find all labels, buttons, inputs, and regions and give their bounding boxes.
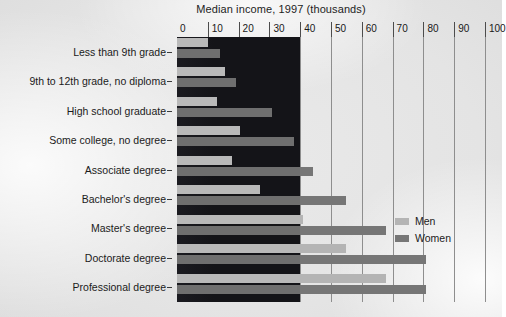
legend-item-men: Men [395,215,451,227]
x-tick-100: 100 [485,22,506,37]
bar-women-0 [177,49,220,58]
bar-men-8 [177,274,386,283]
category-label-1: 9th to 12th grade, no diploma [29,75,166,87]
category-label-7: Doctorate degree [85,252,166,264]
bar-men-5 [177,185,260,194]
category-tick-6 [167,228,172,229]
legend-item-women: Women [395,232,451,244]
legend-swatch-women-icon [395,235,409,242]
bar-men-6 [177,215,303,224]
x-tick-40: 40 [300,22,315,37]
bar-women-5 [177,196,346,205]
category-tick-5 [167,199,172,200]
x-tick-0: 0 [177,22,186,37]
bar-men-2 [177,97,217,106]
bar-row [177,184,485,213]
bar-row [177,155,485,184]
category-tick-7 [167,258,172,259]
x-tick-20: 20 [239,22,254,37]
chart-title: Median income, 1997 (thousands) [0,3,502,15]
category-tick-0 [167,52,172,53]
bar-men-7 [177,244,346,253]
category-tick-1 [167,81,172,82]
category-label-2: High school graduate [67,105,166,117]
category-label-3: Some college, no degree [49,134,166,146]
bar-women-6 [177,226,386,235]
bar-row [177,66,485,95]
bar-women-3 [177,137,294,146]
category-tick-8 [167,287,172,288]
x-tick-60: 60 [362,22,377,37]
bar-row [177,125,485,154]
legend-label-women: Women [415,232,451,244]
bar-women-2 [177,108,272,117]
bar-women-4 [177,167,313,176]
bar-row [177,96,485,125]
x-tick-30: 30 [269,22,284,37]
category-tick-2 [167,111,172,112]
category-label-5: Bachelor's degree [82,193,166,205]
x-tick-50: 50 [331,22,346,37]
category-label-6: Master's degree [91,222,166,234]
x-tick-70: 70 [393,22,408,37]
x-tick-80: 80 [423,22,438,37]
gridline-100 [485,37,486,302]
category-tick-4 [167,170,172,171]
bar-women-1 [177,78,236,87]
bar-women-7 [177,255,426,264]
plot-area [177,37,485,302]
bar-men-1 [177,67,225,76]
category-tick-3 [167,140,172,141]
category-label-4: Associate degree [85,164,166,176]
x-axis-tick-labels: 0102030405060708090100 [177,22,485,37]
bar-rows [177,37,485,302]
bar-row [177,273,485,302]
bar-women-8 [177,285,426,294]
bar-men-4 [177,156,232,165]
category-label-8: Professional degree [73,281,166,293]
chart-legend: Men Women [395,215,451,249]
legend-label-men: Men [415,215,435,227]
bar-men-0 [177,38,208,47]
category-axis-labels: Less than 9th grade9th to 12th grade, no… [0,37,172,302]
bar-men-3 [177,126,240,135]
x-tick-10: 10 [208,22,223,37]
category-label-0: Less than 9th grade [73,46,166,58]
bar-row [177,37,485,66]
x-tick-90: 90 [454,22,469,37]
legend-swatch-men-icon [395,218,409,225]
